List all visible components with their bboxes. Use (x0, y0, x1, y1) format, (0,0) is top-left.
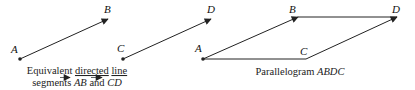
segment-ab: A B (10, 3, 111, 61)
label-c: C (117, 42, 125, 54)
vector-cd-label: CD (107, 77, 122, 88)
point-a-dot (201, 57, 205, 61)
arrow-ab-icon (203, 17, 298, 59)
arrow-cd-icon (306, 17, 397, 59)
arrow-ab-icon (20, 19, 108, 59)
parallelogram-abdc: A B D C (194, 3, 400, 61)
label-a: A (10, 43, 18, 55)
caption-right: Parallelogram ABDC (256, 66, 346, 77)
point-c-dot (121, 57, 125, 61)
label-c: C (300, 45, 308, 57)
caption-left-line2: segments AB and CD (32, 77, 122, 88)
label-d: D (206, 3, 215, 15)
vector-diagram: A B C D Equivalent directed line segment… (0, 0, 415, 90)
label-d: D (391, 3, 400, 15)
point-a-dot (18, 57, 22, 61)
vector-ab-label: AB (73, 77, 87, 88)
label-b: B (289, 3, 296, 15)
label-b: B (104, 3, 111, 15)
label-a: A (194, 42, 202, 54)
caption-left-line1: Equivalent directed line (27, 65, 128, 76)
